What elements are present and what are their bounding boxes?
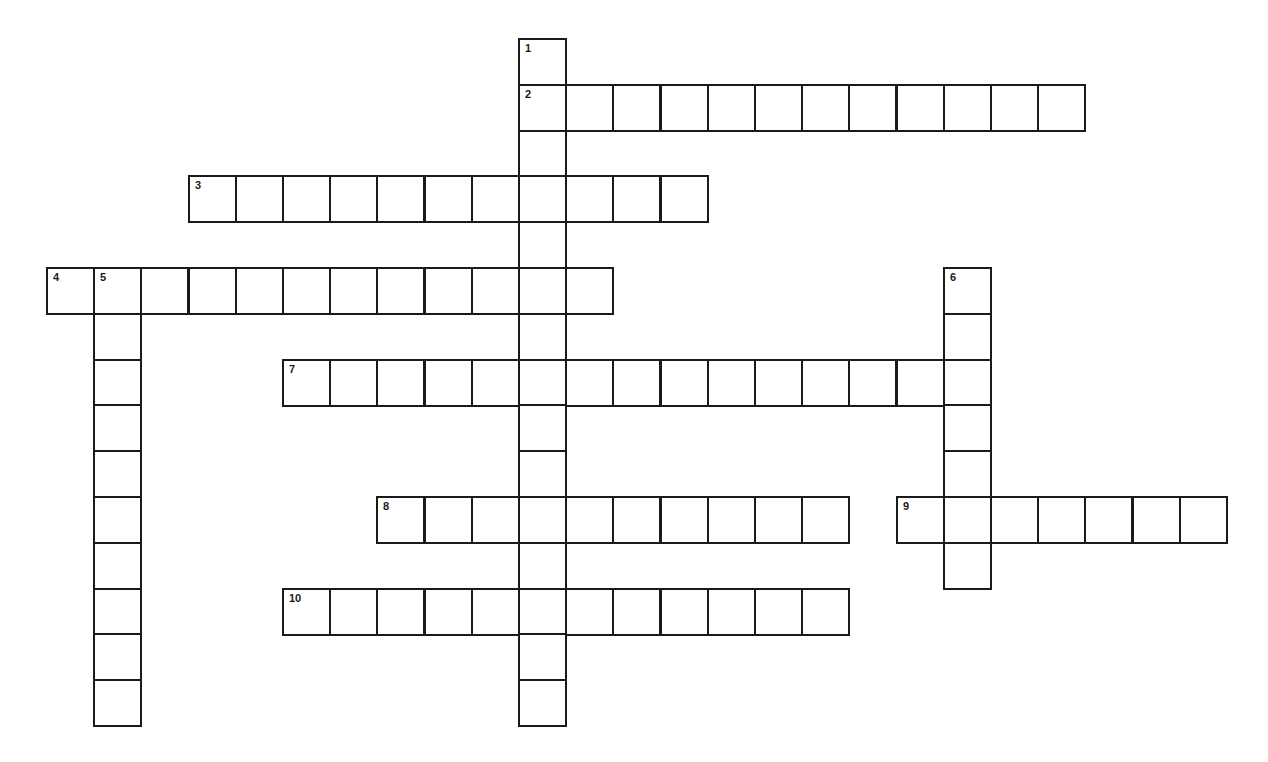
crossword-cell[interactable] (801, 84, 850, 132)
crossword-cell[interactable] (518, 175, 567, 223)
crossword-cell[interactable] (93, 450, 142, 498)
crossword-cell[interactable] (565, 588, 614, 636)
crossword-cell[interactable] (612, 175, 661, 223)
crossword-cell[interactable] (471, 175, 520, 223)
crossword-cell[interactable] (188, 267, 237, 315)
crossword-cell[interactable] (943, 84, 992, 132)
crossword-cell[interactable] (235, 267, 284, 315)
crossword-cell[interactable] (329, 175, 378, 223)
crossword-cell[interactable] (660, 84, 709, 132)
crossword-cell[interactable] (518, 679, 567, 727)
crossword-cell[interactable] (943, 313, 992, 361)
crossword-cell[interactable] (943, 450, 992, 498)
crossword-cell[interactable]: 4 (46, 267, 95, 315)
crossword-cell[interactable] (943, 404, 992, 452)
crossword-cell[interactable] (612, 496, 661, 544)
crossword-cell[interactable] (660, 588, 709, 636)
crossword-cell[interactable] (518, 221, 567, 269)
crossword-cell[interactable] (376, 588, 425, 636)
crossword-cell[interactable] (896, 84, 945, 132)
crossword-cell[interactable] (140, 267, 189, 315)
crossword-cell[interactable] (896, 359, 945, 407)
crossword-cell[interactable] (471, 496, 520, 544)
crossword-cell[interactable] (518, 450, 567, 498)
crossword-cell[interactable] (801, 359, 850, 407)
crossword-cell[interactable] (1132, 496, 1181, 544)
crossword-cell[interactable]: 7 (282, 359, 331, 407)
crossword-cell[interactable]: 1 (518, 38, 567, 86)
crossword-cell[interactable] (565, 175, 614, 223)
crossword-cell[interactable] (471, 267, 520, 315)
crossword-cell[interactable] (329, 267, 378, 315)
crossword-cell[interactable] (990, 496, 1039, 544)
crossword-cell[interactable] (235, 175, 284, 223)
crossword-cell[interactable] (848, 84, 897, 132)
crossword-cell[interactable] (990, 84, 1039, 132)
crossword-cell[interactable] (471, 588, 520, 636)
crossword-cell[interactable] (518, 267, 567, 315)
crossword-cell[interactable] (1084, 496, 1133, 544)
crossword-cell[interactable] (329, 359, 378, 407)
crossword-cell[interactable] (329, 588, 378, 636)
crossword-cell[interactable]: 3 (188, 175, 237, 223)
crossword-cell[interactable] (848, 359, 897, 407)
crossword-cell[interactable] (565, 496, 614, 544)
crossword-cell[interactable] (754, 588, 803, 636)
crossword-cell[interactable] (612, 588, 661, 636)
crossword-cell[interactable] (518, 588, 567, 636)
crossword-cell[interactable]: 5 (93, 267, 142, 315)
crossword-cell[interactable] (376, 175, 425, 223)
crossword-cell[interactable]: 2 (518, 84, 567, 132)
crossword-cell[interactable] (754, 84, 803, 132)
crossword-cell[interactable] (424, 588, 473, 636)
crossword-cell[interactable] (1037, 496, 1086, 544)
crossword-cell[interactable] (518, 496, 567, 544)
crossword-cell[interactable] (518, 633, 567, 681)
crossword-cell[interactable] (424, 267, 473, 315)
crossword-cell[interactable] (660, 175, 709, 223)
crossword-cell[interactable] (518, 542, 567, 590)
crossword-cell[interactable]: 10 (282, 588, 331, 636)
crossword-cell[interactable] (660, 496, 709, 544)
crossword-cell[interactable] (93, 313, 142, 361)
crossword-cell[interactable] (565, 267, 614, 315)
crossword-cell[interactable]: 6 (943, 267, 992, 315)
crossword-cell[interactable] (518, 130, 567, 178)
crossword-cell[interactable] (93, 542, 142, 590)
crossword-cell[interactable] (612, 359, 661, 407)
crossword-cell[interactable] (93, 633, 142, 681)
crossword-cell[interactable] (707, 359, 756, 407)
crossword-cell[interactable] (754, 359, 803, 407)
crossword-cell[interactable] (943, 359, 992, 407)
crossword-cell[interactable]: 8 (376, 496, 425, 544)
crossword-cell[interactable] (754, 496, 803, 544)
crossword-cell[interactable] (565, 84, 614, 132)
crossword-cell[interactable] (1037, 84, 1086, 132)
crossword-cell[interactable] (518, 359, 567, 407)
crossword-cell[interactable] (612, 84, 661, 132)
crossword-cell[interactable] (93, 679, 142, 727)
crossword-cell[interactable] (943, 542, 992, 590)
crossword-cell[interactable] (93, 359, 142, 407)
crossword-cell[interactable] (660, 359, 709, 407)
crossword-cell[interactable] (471, 359, 520, 407)
crossword-cell[interactable] (424, 175, 473, 223)
crossword-cell[interactable] (943, 496, 992, 544)
crossword-cell[interactable] (93, 404, 142, 452)
crossword-cell[interactable] (801, 496, 850, 544)
crossword-cell[interactable] (282, 175, 331, 223)
crossword-cell[interactable] (518, 313, 567, 361)
crossword-cell[interactable] (707, 588, 756, 636)
crossword-cell[interactable] (707, 496, 756, 544)
crossword-cell[interactable] (565, 359, 614, 407)
crossword-cell[interactable] (424, 496, 473, 544)
crossword-cell[interactable] (282, 267, 331, 315)
crossword-cell[interactable] (1179, 496, 1228, 544)
crossword-cell[interactable] (518, 404, 567, 452)
crossword-cell[interactable] (376, 359, 425, 407)
crossword-cell[interactable] (801, 588, 850, 636)
crossword-cell[interactable] (93, 496, 142, 544)
crossword-cell[interactable]: 9 (896, 496, 945, 544)
crossword-cell[interactable] (376, 267, 425, 315)
crossword-cell[interactable] (424, 359, 473, 407)
